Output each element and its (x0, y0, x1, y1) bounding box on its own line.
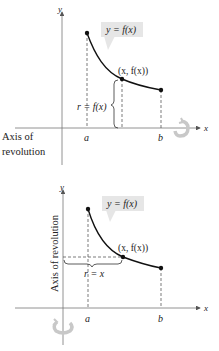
radius-label: r = f(x) (77, 101, 107, 113)
rotation-arrow-icon (53, 319, 72, 333)
y-axis-label: y (57, 4, 62, 14)
rotation-arrow-icon (175, 118, 188, 136)
axis-of-revolution-label: Axis of revolution (49, 214, 60, 292)
point-b (159, 266, 163, 270)
x-axis-label: x (203, 303, 208, 313)
point-a (86, 207, 90, 211)
curve-label-pointer (106, 210, 116, 222)
diagram-canvas: x y y = f(x) (x, f(x)) r = f(x) a b Axis… (0, 0, 219, 351)
curve (88, 209, 161, 268)
axis-of-revolution-label-line2: revolution (2, 146, 46, 157)
axis-of-revolution-label-line1: Axis of (2, 131, 34, 142)
point-label: (x, f(x)) (118, 66, 148, 77)
curve (87, 33, 161, 90)
a-label: a (85, 313, 90, 324)
b-label: b (158, 313, 163, 324)
curve-label-pointer (104, 36, 115, 50)
point-label: (x, f(x)) (118, 243, 148, 254)
x-axis-label: x (203, 123, 208, 133)
point-x (120, 77, 124, 81)
point-b (159, 88, 163, 92)
figure-x-axis-rotation: x y y = f(x) (x, f(x)) r = f(x) a b Axis… (2, 4, 208, 165)
radius-brace (111, 80, 118, 128)
point-a (85, 31, 89, 35)
curve-label: y = f(x) (105, 24, 137, 36)
curve-label: y = f(x) (106, 198, 138, 210)
radius-brace (64, 260, 122, 267)
a-label: a (84, 132, 89, 143)
figure-y-axis-rotation: x y y = f(x) (x, f(x)) r = x a b Axis of… (15, 182, 208, 345)
radius-label: r = x (84, 268, 105, 279)
b-label: b (158, 132, 163, 143)
y-axis-label: y (59, 182, 64, 192)
point-x (121, 255, 125, 259)
